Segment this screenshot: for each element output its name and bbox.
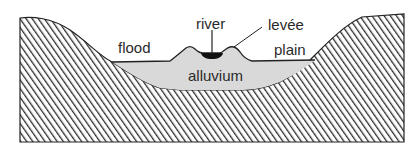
label-plain: plain [274,41,306,58]
levee-leader-line [234,27,262,47]
label-flood: flood [118,39,151,56]
floodplain-cross-section: river levée flood plain alluvium [0,0,413,148]
label-river: river [196,15,225,32]
label-alluvium: alluvium [188,67,243,84]
label-levee: levée [268,16,304,33]
